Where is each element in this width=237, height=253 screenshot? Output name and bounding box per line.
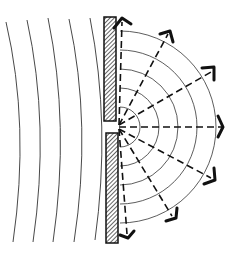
barrier-upper — [104, 17, 116, 121]
wavefront-1 — [6, 22, 20, 242]
wavefront-5 — [90, 18, 102, 240]
ray-lower-right — [119, 129, 211, 178]
rays — [119, 22, 222, 234]
wavefront-2 — [27, 20, 40, 242]
ray-down — [119, 129, 127, 234]
diffraction-diagram — [0, 0, 237, 253]
wavefront-3 — [48, 18, 60, 242]
diagram-canvas — [0, 0, 237, 253]
barrier-lower — [106, 133, 118, 243]
ray-up — [119, 22, 122, 125]
barrier — [104, 17, 118, 243]
wavefront-4 — [69, 19, 82, 242]
incident-wavefronts — [6, 18, 102, 242]
ray-upper-right — [119, 72, 211, 125]
ray-lower-diagonal — [119, 129, 172, 216]
